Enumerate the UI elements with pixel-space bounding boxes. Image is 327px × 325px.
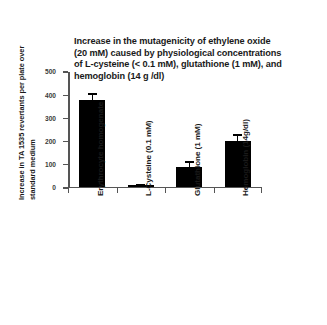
- y-tick-label-400: 400: [45, 91, 56, 98]
- y-tick-label-300: 300: [45, 114, 56, 121]
- x-category-label-0: Erythrocyte homogenate: [96, 102, 105, 196]
- x-category-label-2: Glutathione (1 mM): [193, 124, 202, 196]
- y-tick-label-500: 500: [45, 68, 56, 75]
- x-tick-2: [165, 188, 166, 193]
- x-category-label-3: Hemoglobin (14g/dl): [241, 119, 250, 196]
- y-tick-label-200: 200: [45, 138, 56, 145]
- y-tick-100: 100: [63, 164, 68, 165]
- y-tick-200: 200: [63, 141, 68, 142]
- y-tick-label-100: 100: [45, 161, 56, 168]
- x-category-label-1: L-Cysteine (0.1 mM): [144, 120, 153, 196]
- y-axis-line: [68, 72, 70, 188]
- y-axis-title-line-1: Increase in TA 1535 revertants per plate…: [17, 46, 26, 200]
- x-tick-4: [261, 188, 262, 193]
- y-tick-label-0: 0: [52, 184, 56, 191]
- error-bar-cap-0: [88, 93, 97, 95]
- x-tick-1: [117, 188, 118, 193]
- y-tick-300: 300: [63, 118, 68, 119]
- y-axis-title: Increase in TA 1535 revertants per plate…: [6, 14, 40, 210]
- y-tick-400: 400: [63, 95, 68, 96]
- x-tick-3: [214, 188, 215, 193]
- y-tick-500: 500: [63, 71, 68, 72]
- x-tick-0: [68, 188, 69, 193]
- y-axis-title-line-2: standard medium: [28, 139, 37, 200]
- figure-bar-chart: Increase in the mutagenicity of ethylene…: [0, 0, 327, 325]
